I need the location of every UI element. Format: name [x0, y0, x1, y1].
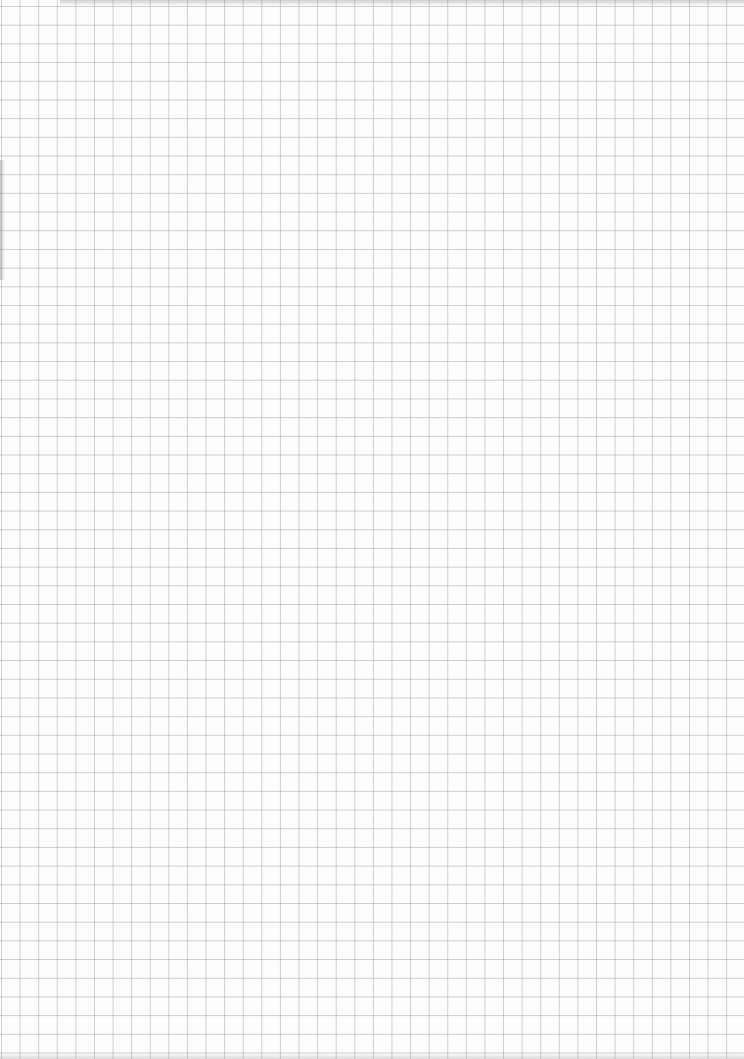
scan-shadow-left [0, 160, 5, 280]
scan-shadow-top [60, 0, 744, 6]
scan-shadow-bottom [0, 1053, 744, 1059]
graph-paper-sheet [0, 0, 744, 1059]
